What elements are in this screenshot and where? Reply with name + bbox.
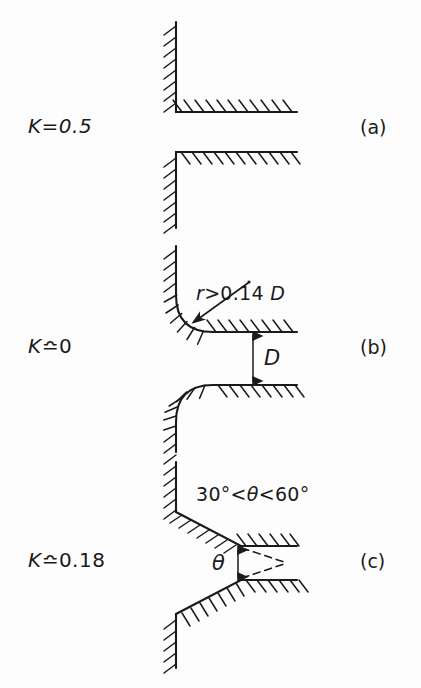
case-c-upper-vertical-hatch: [164, 466, 176, 519]
k-label-case-a: K=0.5: [28, 114, 92, 138]
case-b-lower-vertical-hatch: [164, 426, 176, 464]
k-label-case-b: K≏0: [28, 334, 72, 358]
k-relation-b: ≏: [42, 334, 59, 358]
theta-symbol: θ: [247, 483, 259, 505]
figure-page: K=0.5 K≏0 K≏0.18 (a) (b) (c) r>0.14 D D …: [0, 0, 421, 688]
case-b-upper-vertical-hatch: [164, 250, 176, 292]
k-relation-c: ≏: [42, 548, 59, 572]
case-b-upper-horizontal-hatch: [207, 320, 293, 332]
case-a-geometry: [164, 22, 300, 233]
k-symbol-a: K=0.5: [28, 114, 92, 138]
case-a-upper-horizontal-hatch: [173, 100, 292, 112]
angle-min: 30°<: [196, 483, 247, 505]
k-label-case-c: K≏0.18: [28, 548, 105, 572]
angle-range-note: 30°<θ<60°: [196, 483, 310, 505]
radius-symbol: r: [196, 282, 204, 304]
angle-max: <60°: [259, 483, 310, 505]
k-symbol-c: K: [28, 548, 42, 572]
case-c-lower-vertical-hatch: [164, 620, 176, 673]
part-label-b: (b): [360, 336, 387, 358]
case-b-geometry: [164, 246, 304, 464]
k-symbol-b: K: [28, 334, 42, 358]
theta-wedge-dashed: [242, 548, 287, 578]
part-label-c: (c): [360, 550, 385, 572]
case-a-lower-vertical-hatch: [164, 158, 176, 233]
case-b-lower-fillet-hatch: [164, 385, 205, 420]
case-c-lower-chamfer-hatch: [182, 583, 244, 626]
case-c-upper-horizontal-hatch: [237, 534, 299, 546]
radius-note: r>0.14 D: [196, 282, 285, 304]
case-a-upper-vertical-hatch: [164, 26, 176, 112]
part-label-a: (a): [360, 116, 386, 138]
D-dimension-label: D: [264, 346, 280, 370]
k-value-c: 0.18: [59, 548, 106, 572]
case-c-lower-horizontal-hatch: [246, 580, 308, 592]
case-c-upper-chamfer-hatch: [170, 515, 236, 553]
radius-reference-D: D: [270, 282, 285, 304]
theta-dimension-label: θ: [212, 551, 225, 575]
radius-operator-value: >0.14: [204, 282, 270, 304]
case-b-lower-horizontal-hatch: [218, 385, 304, 397]
case-a-lower-horizontal-hatch: [181, 152, 300, 164]
k-value-b: 0: [59, 334, 72, 358]
